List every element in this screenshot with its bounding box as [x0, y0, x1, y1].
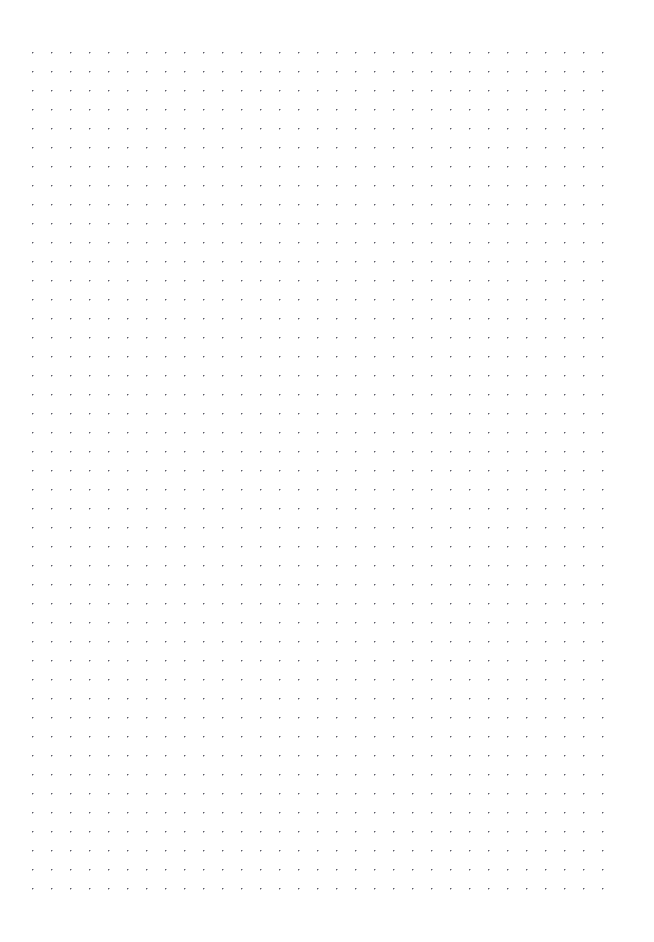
page-content-area[interactable] — [0, 0, 654, 942]
dotted-grid-page — [0, 0, 654, 942]
